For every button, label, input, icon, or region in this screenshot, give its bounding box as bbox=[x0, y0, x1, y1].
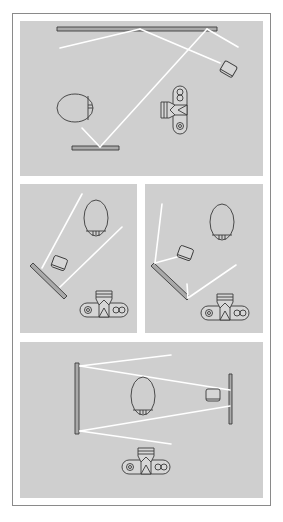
subject-head-icon bbox=[210, 204, 234, 240]
camera-icon bbox=[80, 291, 128, 317]
reflector-left bbox=[75, 363, 79, 434]
lighting-diagram bbox=[0, 0, 283, 522]
light-ray bbox=[155, 257, 177, 263]
flash-unit-icon bbox=[51, 255, 68, 271]
light-ray bbox=[188, 265, 236, 298]
light-ray bbox=[60, 227, 122, 287]
light-ray bbox=[207, 29, 238, 47]
diagram-top bbox=[57, 27, 238, 150]
camera-icon bbox=[161, 86, 187, 134]
diagram-bottom bbox=[75, 355, 232, 474]
reflector-right bbox=[229, 374, 232, 424]
subject-head-icon bbox=[84, 200, 108, 236]
flash-unit-icon bbox=[219, 60, 237, 77]
camera-icon bbox=[201, 294, 249, 320]
camera-icon bbox=[122, 448, 170, 474]
light-ray bbox=[155, 204, 162, 263]
diagram-middle-left bbox=[30, 194, 128, 317]
light-ray bbox=[80, 366, 230, 390]
light-ray bbox=[100, 29, 207, 147]
subject-head-icon bbox=[57, 94, 93, 122]
light-ray bbox=[80, 431, 171, 444]
subject-head-icon bbox=[131, 377, 155, 415]
light-ray bbox=[60, 29, 140, 48]
small-reflector-bottom bbox=[72, 146, 119, 150]
flash-unit-icon bbox=[206, 389, 220, 401]
light-ray bbox=[82, 128, 100, 147]
angled-reflector bbox=[151, 263, 190, 300]
light-ray bbox=[187, 284, 188, 298]
diagram-middle-right bbox=[151, 204, 249, 320]
light-ray bbox=[42, 194, 82, 268]
flash-unit-icon bbox=[177, 245, 194, 261]
light-ray bbox=[80, 355, 171, 366]
light-ray bbox=[80, 406, 230, 431]
